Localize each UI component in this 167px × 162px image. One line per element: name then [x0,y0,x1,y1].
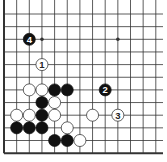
white-stone-icon [23,84,35,96]
white-stone [49,97,61,109]
move-number-label: 1 [39,59,45,70]
black-stone-icon [61,84,73,96]
black-stone-icon [11,122,23,134]
white-stone-move-1: 1 [36,59,48,71]
black-stone [49,84,61,96]
white-stone-icon [87,109,99,121]
white-stone-icon [49,97,61,109]
black-stone [61,84,73,96]
white-stone [11,109,23,121]
white-stone-icon [74,134,86,146]
black-stone [49,134,61,146]
white-stone [49,109,61,121]
white-stone [23,84,35,96]
black-stone-icon [61,134,73,146]
black-stone [36,109,48,121]
go-board: 4123 [0,0,167,162]
move-number-label: 3 [115,110,120,121]
black-stone [61,134,73,146]
white-stone-move-3: 3 [112,109,124,121]
white-stone [61,122,73,134]
move-number-label: 2 [103,84,108,95]
white-stone [23,109,35,121]
black-stone [36,97,48,109]
black-stone-icon [49,84,61,96]
white-stone [74,134,86,146]
black-stone [11,122,23,134]
black-stone [23,122,35,134]
move-number-label: 4 [27,34,33,45]
white-stone-icon [49,109,61,121]
black-stone-icon [23,122,35,134]
white-stone-icon [11,109,23,121]
white-stone-icon [36,84,48,96]
black-stone-move-2: 2 [99,84,111,96]
star-point [116,38,120,42]
white-stone-icon [61,122,73,134]
white-stone [36,84,48,96]
black-stone-icon [36,109,48,121]
white-stone [87,109,99,121]
black-stone-move-4: 4 [23,33,35,45]
black-stone-icon [49,134,61,146]
black-stone [36,122,48,134]
star-point [40,38,44,42]
black-stone-icon [36,97,48,109]
white-stone-icon [23,109,35,121]
black-stone-icon [36,122,48,134]
